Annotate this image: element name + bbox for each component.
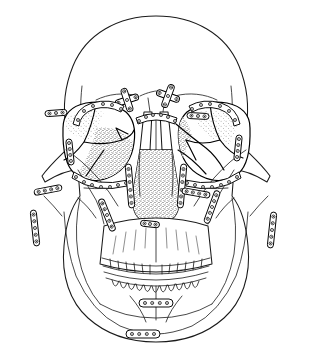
- plate-symphysis-upper[interactable]: [139, 299, 173, 307]
- skull-anterior-view-drawing: [0, 0, 313, 350]
- plate-frontozygomatic-left[interactable]: [45, 109, 67, 117]
- plate-ramus-right[interactable]: [267, 212, 277, 248]
- skull-illustration-figure: [0, 0, 313, 350]
- plate-zygomatic-arch-left[interactable]: [34, 184, 63, 195]
- plate-frontozygomatic-right[interactable]: [187, 112, 209, 119]
- plate-ramus-left[interactable]: [30, 210, 40, 246]
- plate-symphysis-lower[interactable]: [126, 330, 160, 338]
